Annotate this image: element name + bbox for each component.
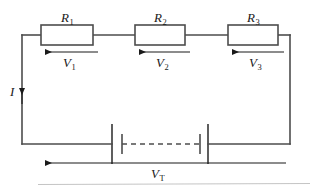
footer-rule [38, 184, 310, 185]
battery-right-cell [200, 124, 208, 164]
circuit-loop-wires [22, 35, 290, 144]
circuit-schematic-canvas [0, 0, 310, 189]
resistor-r2-label: R2 [154, 11, 166, 24]
resistor-r3-body [228, 25, 278, 45]
voltage-drop-v1-label: V1 [63, 56, 75, 69]
resistor-r1-label: R1 [61, 11, 73, 24]
total-voltage-label-vt: VT [151, 167, 164, 180]
voltage-drop-v2-label: V2 [156, 56, 168, 69]
circuit-diagram: R1 R2 R3 V1 V2 V3 I VT [0, 0, 310, 189]
resistor-r2-body [135, 25, 185, 45]
resistor-r1-body [41, 25, 93, 45]
voltage-drop-v3-label: V3 [249, 56, 261, 69]
current-label-i: I [10, 85, 14, 98]
resistor-r3-label: R3 [247, 11, 259, 24]
battery-left-cell [112, 124, 122, 164]
